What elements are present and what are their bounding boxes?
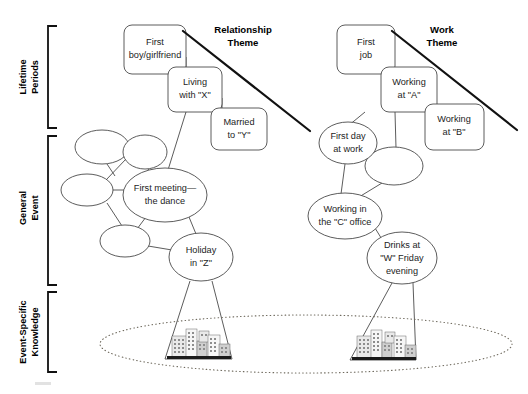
node-label-line3: evening <box>386 266 418 276</box>
node-label-line1: Working <box>392 77 426 87</box>
general-event-ellipse-unlabeled-1[interactable] <box>75 130 129 164</box>
node-label-line2: at "B" <box>443 127 466 137</box>
axis-label-line2: Event <box>30 195 40 220</box>
node-label-line2: at work <box>333 144 363 154</box>
axis-label-line2: Knowledge <box>30 307 40 356</box>
node-label-line2: in "Z" <box>190 258 212 268</box>
theme-label-relationship: Relationship Theme <box>214 24 272 48</box>
node-label-line2: the "C" office <box>319 217 372 227</box>
node-label-line2: "W" Friday <box>380 253 424 263</box>
general-event-ellipse-first-day-at-work[interactable]: First day at work <box>319 122 377 164</box>
axis-bracket-lifetime-periods <box>48 26 57 128</box>
lifetime-period-box-married-to-y[interactable]: Married to "Y" <box>211 108 267 150</box>
node-label-line1: First meeting— <box>134 183 197 193</box>
theme-label-line1: Work <box>430 24 454 35</box>
diagram-svg: Lifetime Periods General Event Event-Spe… <box>0 0 528 394</box>
node-label-line1: First <box>357 37 375 47</box>
axis-label-line1: Event-Specific <box>18 300 28 363</box>
theme-label-work: Work Theme <box>427 24 458 48</box>
esk-dotted-ellipse <box>100 315 512 373</box>
theme-label-line2: Theme <box>427 37 458 48</box>
axis-label-line1: Lifetime <box>18 59 28 94</box>
page-artifact <box>35 382 51 385</box>
node-label-line1: First <box>146 37 164 47</box>
axis-label-general-event: General Event <box>18 191 40 225</box>
general-event-ellipse-drinks-at-w-friday-evening[interactable]: Drinks at "W" Friday evening <box>367 232 437 284</box>
figure-canvas: Lifetime Periods General Event Event-Spe… <box>0 0 528 394</box>
theme-label-line1: Relationship <box>214 24 272 35</box>
axis-bracket-event-specific-knowledge <box>48 292 57 372</box>
general-event-ellipse-unlabeled-2[interactable] <box>123 135 167 169</box>
lifetime-period-box-living-with-x[interactable]: Living with "X" <box>168 67 222 112</box>
axis-label-lifetime-periods: Lifetime Periods <box>18 59 40 94</box>
axis-label-line2: Periods <box>30 60 40 94</box>
node-label-line1: Holiday <box>186 245 217 255</box>
theme-label-line2: Theme <box>228 37 259 48</box>
node-label-line2: at "A" <box>398 90 421 100</box>
general-event-ellipse-unlabeled-4[interactable] <box>100 225 150 257</box>
node-label-line2: the dance <box>145 196 185 206</box>
node-label-line2: boy/girlfriend <box>129 50 182 60</box>
node-label-line1: Working in <box>323 204 366 214</box>
lifetime-period-box-working-at-b[interactable]: Working at "B" <box>425 104 484 150</box>
node-label-line1: Married <box>223 117 254 127</box>
axis-label-event-specific-knowledge: Event-Specific Knowledge <box>18 300 40 363</box>
node-label-line2: to "Y" <box>228 130 251 140</box>
general-event-ellipse-first-meeting-the-dance[interactable]: First meeting— the dance <box>123 168 207 222</box>
cityscape-icon-right <box>352 330 416 360</box>
node-label-line1: Drinks at <box>384 240 421 250</box>
node-label-line1: Working <box>437 114 471 124</box>
node-label-line2: job <box>359 50 372 60</box>
general-event-ellipse-working-in-the-c-office[interactable]: Working in the "C" office <box>308 193 382 239</box>
node-label-line1: First day <box>330 131 366 141</box>
general-event-ellipse-holiday-in-z[interactable]: Holiday in "Z" <box>169 233 233 281</box>
node-label-line1: Living <box>183 77 207 87</box>
general-event-ellipse-unlabeled-3[interactable] <box>61 174 113 206</box>
axis-label-line1: General <box>18 191 28 225</box>
cityscape-icon-left <box>167 329 231 359</box>
node-label-line2: with "X" <box>178 90 211 100</box>
lifetime-period-box-first-job[interactable]: First job <box>337 25 395 74</box>
axis-bracket-general-event <box>48 136 57 285</box>
